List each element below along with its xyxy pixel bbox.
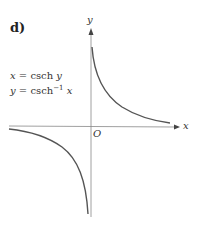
x-axis-arrow-icon: [174, 125, 180, 130]
x-axis-label: x: [183, 120, 189, 131]
graph-figure: d) x = csch y y = csch−1 x y x O: [0, 0, 201, 225]
y-axis-label: y: [87, 14, 93, 25]
eq1-equals: =: [16, 70, 31, 81]
equation-line-1: x = csch y: [10, 69, 62, 82]
x-axis: [9, 126, 176, 127]
eq2-function: csch: [30, 85, 53, 96]
graph-canvas: [0, 0, 201, 225]
equation-line-2: y = csch−1 x: [10, 82, 72, 97]
eq2-argument: x: [64, 85, 73, 96]
eq2-equals: =: [16, 85, 31, 96]
eq1-function: csch: [30, 70, 53, 81]
y-axis-arrow-icon: [89, 28, 94, 35]
origin-label: O: [93, 128, 101, 139]
curve-negative-branch: [9, 129, 88, 214]
curve-positive-branch: [92, 47, 170, 123]
panel-label: d): [10, 20, 25, 35]
eq2-superscript: −1: [53, 84, 63, 92]
eq1-argument: y: [53, 70, 62, 81]
